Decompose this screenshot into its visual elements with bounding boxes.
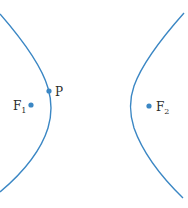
label-f1: F1: [13, 99, 26, 115]
left-branch: [0, 14, 51, 192]
focus-f1: [28, 102, 33, 107]
focus-f2: [146, 103, 151, 108]
point-p: [46, 88, 51, 93]
label-f2: F2: [156, 100, 169, 116]
hyperbola-diagram: P F1 F2: [0, 0, 188, 208]
label-p: P: [55, 85, 63, 99]
